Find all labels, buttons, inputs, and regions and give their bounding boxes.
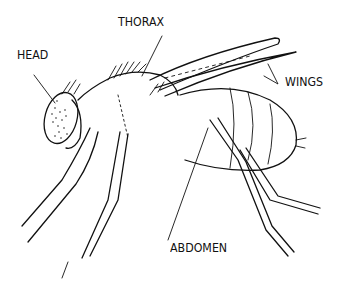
fly-diagram: HEAD THORAX WINGS ABDOMEN	[0, 0, 345, 287]
label-thorax: THORAX	[118, 14, 164, 29]
leader-lines	[34, 36, 278, 278]
label-abdomen: ABDOMEN	[170, 240, 227, 255]
wings-shape	[150, 38, 296, 96]
label-head: HEAD	[17, 47, 48, 62]
label-wings: WINGS	[285, 74, 323, 89]
